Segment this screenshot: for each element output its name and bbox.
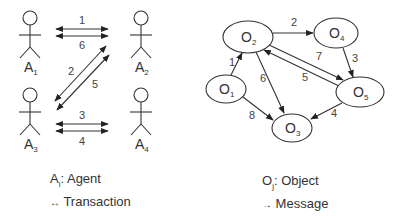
message-label: 7	[316, 50, 322, 62]
message-1: 1	[229, 53, 242, 75]
object-o1: O1	[206, 75, 246, 103]
transaction-6: 6	[56, 36, 108, 51]
legend-agent-symbol: A	[50, 171, 59, 186]
legend-message-text: Message	[272, 196, 328, 211]
message-4: 4	[311, 103, 342, 119]
message-6: 6	[256, 52, 284, 113]
message-label: 1	[229, 56, 235, 68]
arrow-icon: →	[262, 199, 272, 210]
message-8: 8	[243, 97, 273, 121]
agent-label: A2	[135, 59, 149, 77]
stick-figure-icon	[130, 88, 152, 135]
message-label: 3	[352, 52, 358, 64]
object-o4: O4	[314, 18, 358, 48]
legend-agent-text: : Agent	[60, 171, 100, 186]
transaction-label: 6	[79, 39, 85, 51]
stick-figure-icon	[19, 11, 41, 58]
transaction-1: 1	[56, 14, 108, 29]
transaction-3: 3	[56, 109, 108, 124]
transaction-label: 5	[92, 78, 98, 90]
legend-transaction-text: Transaction	[60, 194, 131, 209]
legend-object-symbol: O	[262, 173, 272, 188]
arrow-icon	[311, 103, 342, 119]
message-label: 2	[291, 16, 297, 28]
transaction-2: 2	[55, 46, 106, 101]
agent-a2: A2	[130, 11, 152, 77]
message-2: 2	[273, 16, 313, 33]
transaction-4: 4	[56, 131, 108, 147]
transaction-label: 2	[68, 65, 74, 77]
message-3: 3	[343, 48, 358, 77]
message-label: 6	[260, 72, 266, 84]
legend-transaction: ↔ Transaction	[50, 193, 131, 211]
transaction-label: 4	[79, 135, 85, 147]
legend-right: Oj: Object → Message	[262, 172, 328, 213]
legend-message: → Message	[262, 195, 328, 213]
agent-label: A1	[24, 59, 38, 77]
double-arrow-icon	[57, 55, 109, 110]
agent-a3: A3	[19, 88, 41, 154]
message-5: 5	[264, 50, 339, 86]
legend-left: Ai: Agent ↔ Transaction	[50, 170, 131, 211]
agent-label: A3	[24, 136, 38, 154]
object-o2: O2	[223, 21, 273, 53]
object-o3: O3	[272, 114, 312, 142]
message-label: 8	[249, 109, 255, 121]
stick-figure-icon	[19, 88, 41, 135]
agent-label: A4	[135, 136, 149, 154]
stick-figure-icon	[130, 11, 152, 58]
legend-object-text: : Object	[274, 173, 319, 188]
legend-agent: Ai: Agent	[50, 170, 131, 193]
object-o5: O5	[336, 77, 384, 107]
legend-object: Oj: Object	[262, 172, 328, 195]
double-arrow-icon	[55, 46, 106, 101]
transaction-label: 1	[79, 14, 85, 26]
arrow-icon	[243, 97, 273, 120]
agent-a1: A1	[19, 11, 41, 77]
transaction-label: 3	[79, 109, 85, 121]
transaction-5: 5	[57, 55, 109, 110]
agent-a4: A4	[130, 88, 152, 154]
message-label: 5	[302, 71, 308, 83]
double-arrow-icon: ↔	[50, 197, 60, 208]
message-label: 4	[331, 107, 337, 119]
